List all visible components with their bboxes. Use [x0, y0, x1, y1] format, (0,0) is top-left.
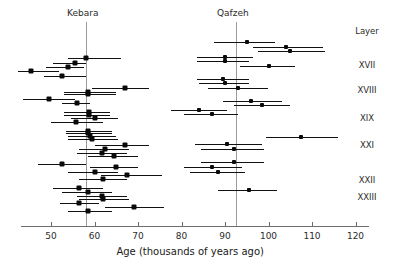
layer-label-XXIII: XXIII	[357, 192, 376, 202]
kebara-data-point	[101, 197, 106, 202]
qafzeh-data-point	[232, 160, 236, 164]
x-tick-label-110: 110	[303, 231, 320, 241]
kebara-data-point	[100, 151, 105, 156]
qafzeh-data-point	[288, 49, 292, 53]
kebara-data-point	[83, 56, 88, 61]
qafzeh-error-bar	[253, 47, 323, 48]
x-tick-label-80: 80	[176, 231, 187, 241]
kebara-data-point	[86, 113, 91, 118]
kebara-data-point	[114, 165, 119, 170]
kebara-error-bar	[92, 88, 149, 89]
layer-label-XVII: XVII	[359, 60, 376, 70]
qafzeh-site-label: Qafzeh	[217, 8, 249, 18]
x-axis-line	[21, 226, 369, 227]
kebara-data-point	[59, 74, 64, 79]
qafzeh-data-point	[249, 99, 253, 103]
qafzeh-data-point	[260, 103, 264, 107]
kebara-data-point	[29, 69, 34, 74]
qafzeh-data-point	[284, 45, 288, 49]
kebara-data-point	[131, 205, 136, 210]
kebara-site-label: Kebara	[67, 8, 98, 18]
kebara-data-point	[101, 177, 106, 182]
qafzeh-data-point	[232, 147, 236, 151]
qafzeh-data-point	[267, 64, 271, 68]
kebara-data-point	[72, 61, 77, 66]
x-tick-50	[51, 222, 52, 226]
kebara-data-point	[122, 86, 127, 91]
x-tick-80	[182, 222, 183, 226]
x-tick-label-100: 100	[260, 231, 277, 241]
x-tick-label-90: 90	[219, 231, 230, 241]
kebara-data-point	[92, 116, 97, 121]
qafzeh-data-point	[225, 142, 229, 146]
kebara-error-bar	[18, 71, 58, 72]
x-tick-120	[356, 222, 357, 226]
qafzeh-data-point	[197, 108, 201, 112]
kebara-error-bar	[44, 76, 85, 77]
kebara-data-point	[77, 186, 82, 191]
layer-label-XIX: XIX	[360, 113, 374, 123]
kebara-data-point	[90, 137, 95, 142]
kebara-data-point	[85, 190, 90, 195]
kebara-data-point	[59, 162, 64, 167]
x-tick-110	[312, 222, 313, 226]
kebara-data-point	[125, 173, 130, 178]
kebara-data-point	[112, 154, 117, 159]
x-tick-label-120: 120	[347, 231, 364, 241]
kebara-error-bar	[101, 175, 162, 176]
x-tick-label-70: 70	[132, 231, 143, 241]
qafzeh-data-point	[223, 81, 227, 85]
kebara-data-point	[66, 65, 71, 70]
x-tick-60	[95, 222, 96, 226]
qafzeh-data-point	[210, 112, 214, 116]
layer-label-XXI: XXI	[360, 140, 374, 150]
qafzeh-data-point	[245, 40, 249, 44]
age-scatter-chart: KebaraQafzeh5060708090100110120Age (thou…	[0, 0, 405, 272]
qafzeh-data-point	[210, 165, 214, 169]
qafzeh-mean-line	[236, 22, 237, 226]
kebara-data-point	[74, 120, 79, 125]
qafzeh-data-point	[236, 86, 240, 90]
layer-column-header: Layer	[355, 26, 379, 36]
x-tick-label-60: 60	[89, 231, 100, 241]
x-tick-70	[138, 222, 139, 226]
kebara-data-point	[92, 170, 97, 175]
kebara-data-point	[77, 201, 82, 206]
x-tick-label-50: 50	[45, 231, 56, 241]
layer-label-XVIII: XVIII	[357, 85, 376, 95]
qafzeh-data-point	[247, 188, 251, 192]
kebara-error-bar	[68, 58, 121, 59]
qafzeh-data-point	[299, 135, 303, 139]
x-tick-90	[225, 222, 226, 226]
kebara-data-point	[85, 92, 90, 97]
kebara-data-point	[85, 209, 90, 214]
x-axis-title: Age (thousands of years ago)	[116, 246, 264, 257]
qafzeh-data-point	[216, 170, 220, 174]
qafzeh-data-point	[223, 59, 227, 63]
kebara-data-point	[46, 97, 51, 102]
kebara-data-point	[75, 101, 80, 106]
layer-label-XXII: XXII	[359, 175, 376, 185]
kebara-data-point	[122, 143, 127, 148]
x-tick-100	[269, 222, 270, 226]
kebara-error-bar	[46, 67, 84, 68]
